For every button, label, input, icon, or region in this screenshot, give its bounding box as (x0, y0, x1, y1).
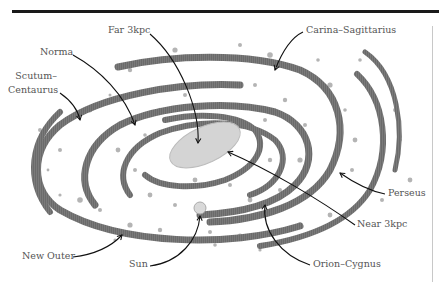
label-carina-sagittarius: Carina–Sagittarius (306, 25, 396, 36)
label-near-3kpc: Near 3kpc (357, 219, 407, 230)
label-scutum-centaurus-line1: Scutum– (12, 71, 57, 82)
label-orion-cygnus: Orion–Cygnus (313, 259, 381, 270)
sun-marker (194, 202, 206, 214)
galaxy-diagram (0, 0, 439, 282)
label-scutum-centaurus-line2: Centaurus (8, 85, 57, 96)
arrow-new-outer (73, 235, 122, 257)
label-new-outer: New Outer (22, 251, 75, 262)
label-norma: Norma (40, 47, 73, 58)
label-far-3kpc: Far 3kpc (108, 25, 150, 36)
label-perseus: Perseus (388, 188, 426, 199)
label-sun: Sun (129, 259, 148, 270)
